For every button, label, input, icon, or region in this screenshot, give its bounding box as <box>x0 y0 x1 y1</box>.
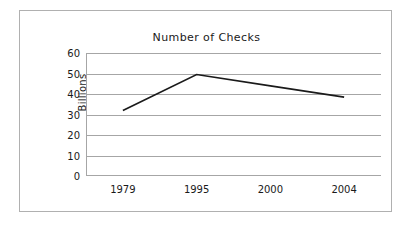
data-series-group <box>123 75 344 111</box>
y-axis-tick-label: 40 <box>67 89 80 100</box>
y-axis-tick-label: 50 <box>67 68 80 79</box>
chart-container: Number of Checks Billions 0102030405060 … <box>19 10 392 212</box>
y-axis-tick-label: 30 <box>67 109 80 120</box>
x-axis-tick-label: 2004 <box>331 184 356 195</box>
y-axis-tick-label: 60 <box>67 48 80 59</box>
chart-title: Number of Checks <box>20 31 393 44</box>
gridlines <box>86 54 381 177</box>
y-axis-tick-label: 20 <box>67 130 80 141</box>
x-axis-tick-label: 1995 <box>184 184 209 195</box>
x-axis-tick-label: 2000 <box>258 184 283 195</box>
x-axis-tick-label: 1979 <box>110 184 135 195</box>
y-axis-tick-label: 10 <box>67 150 80 161</box>
data-series-line <box>123 75 344 111</box>
y-axis-tick-label: 0 <box>74 171 80 182</box>
plot-area: Billions 0102030405060 1979199520002004 <box>86 53 381 176</box>
chart-plot-svg <box>86 53 381 176</box>
